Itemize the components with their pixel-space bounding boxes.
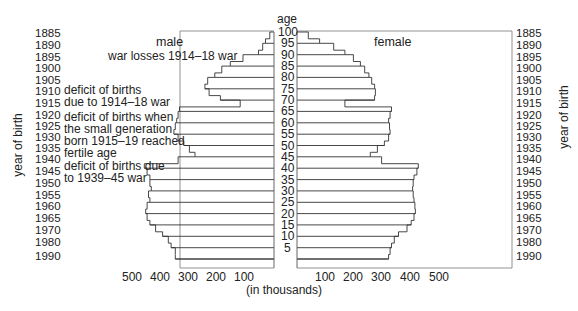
x-tick-label: 500 <box>429 271 449 283</box>
x-tick-label: 100 <box>234 271 254 283</box>
year-of-birth-title-right: year of birth <box>557 85 571 148</box>
annotation-deficit-1914-line2: due to 1914–18 war <box>64 96 170 109</box>
year-tick-label: 1910 <box>516 85 542 97</box>
male-label: male <box>156 36 183 48</box>
year-tick-label: 1940 <box>35 153 61 165</box>
year-tick-label: 1885 <box>516 27 542 39</box>
female-label: female <box>374 36 412 48</box>
x-tick-label: 200 <box>343 271 363 283</box>
year-tick-label: 1960 <box>35 200 61 212</box>
year-tick-label: 1970 <box>516 224 542 236</box>
age-tick-label: 5 <box>284 242 291 254</box>
male-bars <box>144 32 274 268</box>
x-tick-label: 400 <box>150 271 170 283</box>
year-tick-label: 1910 <box>35 85 61 97</box>
year-tick-label: 1980 <box>516 236 542 248</box>
x-tick-label: 400 <box>400 271 420 283</box>
x-tick-label: 500 <box>122 271 142 283</box>
year-tick-label: 1990 <box>516 250 542 262</box>
year-tick-label: 1890 <box>516 39 542 51</box>
x-tick-label: 300 <box>371 271 391 283</box>
year-tick-label: 1980 <box>35 236 61 248</box>
year-tick-label: 1945 <box>35 165 61 177</box>
x-tick-label: 100 <box>315 271 335 283</box>
year-tick-label: 1960 <box>516 200 542 212</box>
year-tick-label: 1900 <box>35 62 61 74</box>
year-tick-label: 1890 <box>35 39 61 51</box>
year-tick-label: 1945 <box>516 165 542 177</box>
chart-frame <box>180 31 512 268</box>
age-axis-title: age <box>277 13 297 25</box>
annotation-war-losses: war losses 1914–18 war <box>108 50 237 63</box>
year-tick-label: 1950 <box>516 177 542 189</box>
year-tick-label: 1950 <box>35 177 61 189</box>
year-of-birth-title-left: year of birth <box>11 113 25 176</box>
year-tick-label: 1940 <box>516 153 542 165</box>
x-tick-label: 200 <box>206 271 226 283</box>
year-tick-label: 1970 <box>35 224 61 236</box>
x-tick-label: 300 <box>178 271 198 283</box>
year-tick-label: 1965 <box>516 212 542 224</box>
year-tick-label: 1915 <box>516 97 542 109</box>
year-tick-label: 1900 <box>516 62 542 74</box>
female-bars <box>297 32 418 268</box>
year-tick-label: 1990 <box>35 250 61 262</box>
year-tick-label: 1915 <box>35 97 61 109</box>
year-tick-label: 1965 <box>35 212 61 224</box>
x-axis-title: (in thousands) <box>246 284 322 296</box>
annotation-deficit-1939-line2: to 1939–45 war <box>64 172 147 185</box>
year-tick-label: 1885 <box>35 27 61 39</box>
